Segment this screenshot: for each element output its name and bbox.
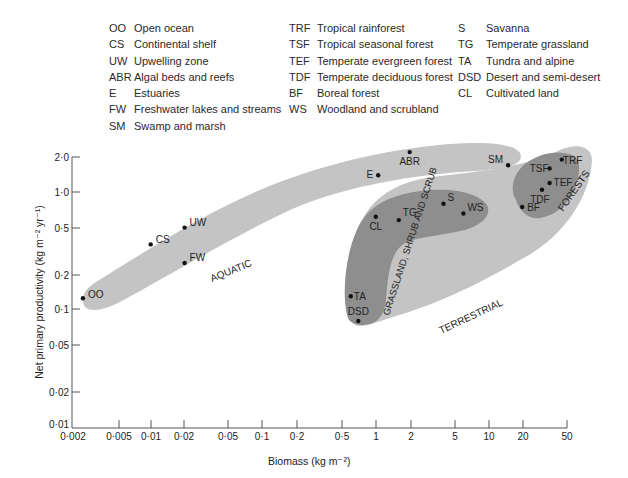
x-tick-label: 0·05 bbox=[218, 431, 238, 442]
terrestrial-label: TERRESTRIAL bbox=[437, 297, 504, 336]
data-point-fw bbox=[182, 261, 186, 265]
x-tick-label: 5 bbox=[452, 431, 458, 442]
data-point-uw bbox=[182, 225, 186, 229]
y-tick-label: 0·5 bbox=[55, 223, 70, 234]
data-point-label: CL bbox=[369, 221, 382, 232]
x-tick-labels: 0·002 0·005 0·01 0·02 0·05 0·1 0·2 0·5 1… bbox=[60, 431, 573, 442]
data-point-dsd bbox=[356, 319, 360, 323]
y-tick-label: 0·01 bbox=[49, 419, 69, 430]
y-tick-label: 2·0 bbox=[55, 152, 70, 163]
x-tick-label: 20 bbox=[517, 431, 529, 442]
data-point-ta bbox=[349, 294, 353, 298]
x-tick-label: 0·01 bbox=[141, 431, 161, 442]
x-tick-label: 1 bbox=[373, 431, 379, 442]
x-tick-label: 10 bbox=[483, 431, 495, 442]
x-tick-label: 50 bbox=[561, 431, 573, 442]
data-point-label: E bbox=[367, 169, 374, 180]
data-point-label: DSD bbox=[348, 306, 369, 317]
data-point-tg bbox=[397, 218, 401, 222]
y-tick-label: 0·2 bbox=[55, 270, 70, 281]
data-point-abr bbox=[408, 150, 412, 154]
y-tick-label: 1·0 bbox=[55, 187, 70, 198]
y-tick-label: 0·1 bbox=[55, 304, 70, 315]
data-point-label: BF bbox=[527, 202, 540, 213]
data-point-label: TRF bbox=[563, 155, 582, 166]
data-point-label: FW bbox=[190, 252, 206, 263]
x-tick-label: 0·002 bbox=[60, 431, 86, 442]
data-point-e bbox=[376, 173, 380, 177]
data-point-tef bbox=[547, 181, 551, 185]
x-tick-label: 0·02 bbox=[174, 431, 194, 442]
y-tick-label: 0·02 bbox=[49, 387, 69, 398]
data-point-label: UW bbox=[190, 217, 207, 228]
data-point-label: CS bbox=[156, 234, 170, 245]
x-tick-label: 0·1 bbox=[255, 431, 270, 442]
x-tick-label: 0·2 bbox=[290, 431, 305, 442]
x-tick-label: 0·5 bbox=[335, 431, 350, 442]
data-point-label: SM bbox=[488, 154, 503, 165]
x-tick-label: 2 bbox=[408, 431, 414, 442]
data-point-label: TG bbox=[403, 207, 417, 218]
scatter-chart: 2·0 1·0 0·5 0·2 0·1 0·05 0·02 0·01 0·002… bbox=[0, 0, 628, 478]
data-point-label: ABR bbox=[399, 156, 420, 167]
data-point-cs bbox=[149, 242, 153, 246]
data-point-label: TEF bbox=[554, 177, 573, 188]
aquatic-label: AQUATIC bbox=[209, 257, 254, 284]
data-point-label: WS bbox=[467, 202, 483, 213]
y-tick-label: 0·05 bbox=[49, 340, 69, 351]
data-point-label: S bbox=[448, 192, 455, 203]
y-axis-title: Net primary productivity (kg m⁻² yr⁻¹) bbox=[33, 205, 45, 379]
data-point-s bbox=[441, 202, 445, 206]
x-tick-label: 0·005 bbox=[106, 431, 132, 442]
x-axis bbox=[72, 420, 567, 428]
data-point-bf bbox=[520, 205, 524, 209]
y-tick-labels: 2·0 1·0 0·5 0·2 0·1 0·05 0·02 0·01 bbox=[49, 152, 69, 430]
data-point-label: TA bbox=[354, 291, 366, 302]
y-axis bbox=[72, 157, 80, 428]
data-point-sm bbox=[506, 163, 510, 167]
data-point-label: TSF bbox=[530, 163, 549, 174]
data-point-ws bbox=[461, 211, 465, 215]
data-point-oo bbox=[81, 296, 85, 300]
data-point-cl bbox=[374, 215, 378, 219]
data-point-label: OO bbox=[88, 289, 104, 300]
x-axis-title: Biomass (kg m⁻²) bbox=[268, 455, 350, 467]
data-point-tdf bbox=[540, 188, 544, 192]
